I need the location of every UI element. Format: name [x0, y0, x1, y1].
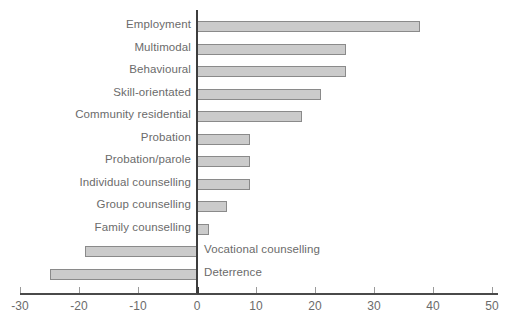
x-tick-label: 20 — [295, 299, 335, 313]
category-label: Probation/parole — [105, 153, 191, 165]
bar[interactable] — [197, 179, 250, 190]
category-label: Individual counselling — [79, 176, 191, 188]
category-label: Employment — [126, 18, 191, 30]
bar-row: Vocational counselling — [0, 240, 522, 263]
bar-row: Individual counselling — [0, 173, 522, 196]
category-label: Family counselling — [95, 221, 191, 233]
x-tick-mark — [79, 287, 80, 293]
bar-row: Multimodal — [0, 38, 522, 61]
bar-row: Probation — [0, 128, 522, 151]
x-tick-label: 10 — [236, 299, 276, 313]
x-tick-label: -20 — [59, 299, 99, 313]
x-tick-mark — [374, 287, 375, 293]
x-tick-mark — [492, 287, 493, 293]
bar-row: Probation/parole — [0, 150, 522, 173]
category-label: Community residential — [75, 108, 191, 120]
x-tick-mark — [315, 287, 316, 293]
bar[interactable] — [197, 134, 250, 145]
bar-chart: EmploymentMultimodalBehaviouralSkill-ori… — [0, 0, 522, 332]
bar-row: Family counselling — [0, 218, 522, 241]
x-tick-label: 30 — [354, 299, 394, 313]
bar[interactable] — [197, 201, 227, 212]
x-tick-mark — [433, 287, 434, 293]
bar[interactable] — [197, 66, 346, 77]
x-tick-label: 0 — [177, 299, 217, 313]
bar[interactable] — [85, 246, 197, 257]
bar-row: Group counselling — [0, 195, 522, 218]
bar-row: Skill-orientated — [0, 83, 522, 106]
x-tick-mark — [138, 287, 139, 293]
bar[interactable] — [197, 89, 321, 100]
plot-area: EmploymentMultimodalBehaviouralSkill-ori… — [0, 0, 522, 300]
x-tick-label: -30 — [0, 299, 40, 313]
category-label: Skill-orientated — [113, 86, 191, 98]
x-tick-mark — [20, 287, 21, 293]
x-tick-label: -10 — [118, 299, 158, 313]
bar-row: Behavioural — [0, 60, 522, 83]
category-label: Group counselling — [97, 198, 191, 210]
bar-row: Community residential — [0, 105, 522, 128]
x-tick-label: 40 — [413, 299, 453, 313]
category-label: Vocational counselling — [204, 243, 320, 255]
category-label: Behavioural — [129, 63, 191, 75]
x-tick-mark — [197, 287, 199, 294]
x-axis-line — [20, 293, 498, 295]
bar[interactable] — [50, 269, 198, 280]
x-tick-mark — [256, 287, 257, 293]
zero-axis-line — [196, 10, 198, 293]
category-label: Multimodal — [134, 41, 191, 53]
bar[interactable] — [197, 156, 250, 167]
bar[interactable] — [197, 44, 346, 55]
bar[interactable] — [197, 111, 302, 122]
bar[interactable] — [197, 21, 420, 32]
category-label: Probation — [141, 131, 191, 143]
x-tick-label: 50 — [472, 299, 512, 313]
category-label: Deterrence — [204, 266, 262, 278]
bar[interactable] — [197, 224, 209, 235]
bar-row: Deterrence — [0, 263, 522, 286]
bar-row: Employment — [0, 15, 522, 38]
